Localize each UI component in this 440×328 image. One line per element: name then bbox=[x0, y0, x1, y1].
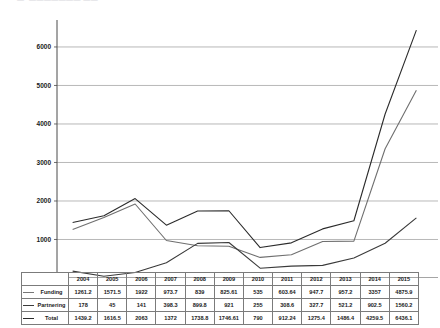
table-cell: 603.64 bbox=[273, 286, 302, 299]
table-cell: 1922 bbox=[127, 286, 156, 299]
table-cell: 902.5 bbox=[360, 299, 389, 312]
table-cell: 1571.5 bbox=[98, 286, 127, 299]
table-row: Funding1261.21571.51922973.7839825.61535… bbox=[22, 286, 419, 299]
table-cell: 535 bbox=[243, 286, 272, 299]
table-cell: 45 bbox=[98, 299, 127, 312]
table-column-header: 2006 bbox=[127, 273, 156, 286]
table-cell: 790 bbox=[243, 312, 272, 325]
table-column-header: 2011 bbox=[273, 273, 302, 286]
table-cell: 1261.2 bbox=[69, 286, 98, 299]
table-row: Partnering17845141398.3899.8921255308.63… bbox=[22, 299, 419, 312]
table-row-header-partnering: Partnering bbox=[22, 299, 69, 312]
y-axis-tick-label: 5000 bbox=[37, 82, 52, 89]
y-axis-tick-label: 4000 bbox=[37, 120, 52, 127]
table-row-label: Total bbox=[32, 315, 58, 321]
y-axis-tick-label: 1000 bbox=[37, 236, 52, 243]
table-cell: 255 bbox=[243, 299, 272, 312]
table-column-header: 2009 bbox=[214, 273, 243, 286]
table-cell: 2063 bbox=[127, 312, 156, 325]
table-cell: 141 bbox=[127, 299, 156, 312]
legend-line-swatch-icon bbox=[23, 305, 34, 306]
series-line-partnering bbox=[73, 218, 417, 276]
table-column-header: 2007 bbox=[156, 273, 185, 286]
table-corner-cell bbox=[22, 273, 69, 286]
table-cell: 957.2 bbox=[331, 286, 360, 299]
table-cell: 973.7 bbox=[156, 286, 185, 299]
legend-line-swatch-icon bbox=[23, 318, 34, 319]
table-row-header-funding: Funding bbox=[22, 286, 69, 299]
y-axis-tick-labels: 0100020003000400050006000 bbox=[37, 43, 52, 278]
table-cell: 1372 bbox=[156, 312, 185, 325]
table-cell: 398.3 bbox=[156, 299, 185, 312]
legend-line-swatch-icon bbox=[23, 292, 34, 293]
table-cell: 521.2 bbox=[331, 299, 360, 312]
table-cell: 327.7 bbox=[302, 299, 331, 312]
table-cell: 1746.61 bbox=[214, 312, 243, 325]
table-column-header: 2015 bbox=[389, 273, 418, 286]
table-column-header: 2014 bbox=[360, 273, 389, 286]
table-cell: 1275.4 bbox=[302, 312, 331, 325]
y-axis-tick-label: 2000 bbox=[37, 197, 52, 204]
table-cell: 1560.2 bbox=[389, 299, 418, 312]
chart-svg: 0100020003000400050006000 bbox=[0, 6, 440, 278]
table-body: Funding1261.21571.51922973.7839825.61535… bbox=[22, 286, 419, 325]
table-column-header: 2012 bbox=[302, 273, 331, 286]
table-cell: 308.6 bbox=[273, 299, 302, 312]
table-cell: 3357 bbox=[360, 286, 389, 299]
table-cell: 1439.2 bbox=[69, 312, 98, 325]
table-cell: 899.8 bbox=[185, 299, 214, 312]
table-cell: 6436.1 bbox=[389, 312, 418, 325]
clipped-caption-artifact: — ——————— —— bbox=[10, 0, 98, 3]
series-line-total bbox=[73, 30, 417, 247]
table-column-header: 2004 bbox=[69, 273, 98, 286]
table-cell: 947.7 bbox=[302, 286, 331, 299]
table-cell: 1486.4 bbox=[331, 312, 360, 325]
y-axis-tick-label: 3000 bbox=[37, 159, 52, 166]
table-column-header: 2010 bbox=[243, 273, 272, 286]
table-cell: 921 bbox=[214, 299, 243, 312]
table-row-header-total: Total bbox=[22, 312, 69, 325]
table-cell: 839 bbox=[185, 286, 214, 299]
table-cell: 912.24 bbox=[273, 312, 302, 325]
table-cell: 4875.9 bbox=[389, 286, 418, 299]
table-header-row: 2004200520062007200820092010201120122013… bbox=[22, 273, 419, 286]
table-cell: 1738.8 bbox=[185, 312, 214, 325]
table-cell: 4259.5 bbox=[360, 312, 389, 325]
table-column-header: 2005 bbox=[98, 273, 127, 286]
table-row: Total1439.21616.5206313721738.81746.6179… bbox=[22, 312, 419, 325]
series-line-funding bbox=[73, 90, 417, 257]
table-cell: 1616.5 bbox=[98, 312, 127, 325]
line-chart: 0100020003000400050006000 bbox=[0, 6, 440, 278]
table-column-header: 2008 bbox=[185, 273, 214, 286]
y-axis-tick-label: 6000 bbox=[37, 43, 52, 50]
table-cell: 825.61 bbox=[214, 286, 243, 299]
table-cell: 178 bbox=[69, 299, 98, 312]
data-table: 2004200520062007200820092010201120122013… bbox=[21, 272, 419, 325]
table-column-header: 2013 bbox=[331, 273, 360, 286]
